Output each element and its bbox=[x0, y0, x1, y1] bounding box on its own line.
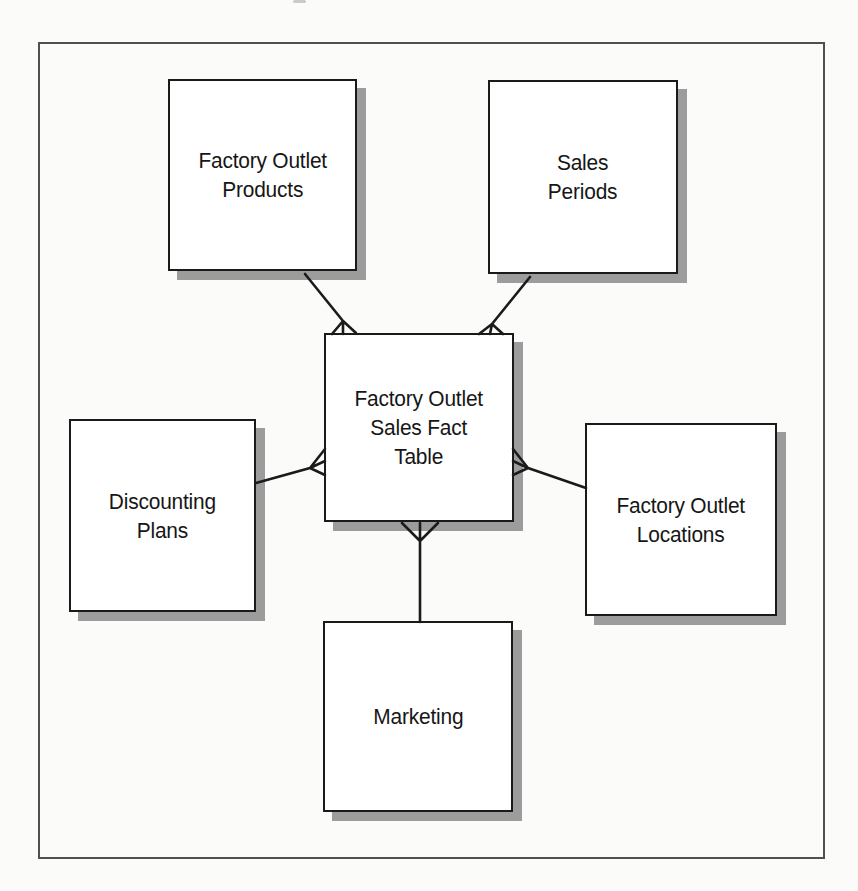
entity-box-discounting-plans: Discounting Plans bbox=[69, 419, 256, 612]
entity-label-factory-outlet-sales-fact-table: Factory Outlet Sales Fact Table bbox=[355, 384, 484, 471]
entity-label-marketing: Marketing bbox=[373, 702, 463, 731]
entity-box-factory-outlet-locations: Factory Outlet Locations bbox=[585, 423, 777, 616]
figure-canvas: Factory Outlet Products Sales Periods Di… bbox=[0, 0, 858, 891]
entity-label-sales-periods: Sales Periods bbox=[548, 148, 618, 206]
scan-artifact bbox=[293, 0, 306, 3]
entity-box-marketing: Marketing bbox=[323, 621, 513, 812]
entity-label-factory-outlet-locations: Factory Outlet Locations bbox=[617, 491, 746, 549]
entity-box-sales-periods: Sales Periods bbox=[488, 80, 678, 274]
entity-label-discounting-plans: Discounting Plans bbox=[109, 487, 216, 545]
entity-box-factory-outlet-sales-fact-table: Factory Outlet Sales Fact Table bbox=[324, 333, 514, 522]
entity-label-factory-outlet-products: Factory Outlet Products bbox=[198, 146, 327, 204]
entity-box-factory-outlet-products: Factory Outlet Products bbox=[168, 79, 357, 271]
